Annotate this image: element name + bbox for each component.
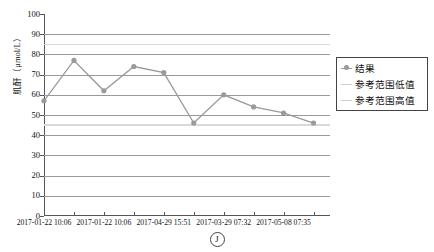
y-axis-tick-label: 90 bbox=[14, 30, 40, 39]
data-point[interactable] bbox=[221, 92, 226, 97]
y-axis-tick-label: 20 bbox=[14, 171, 40, 180]
y-axis-tick-labels: 1009080706050403020100 bbox=[10, 0, 40, 252]
legend-item-result[interactable]: 结果 bbox=[339, 60, 425, 76]
result-line bbox=[44, 60, 314, 123]
y-axis-tick-label: 80 bbox=[14, 50, 40, 59]
y-axis-tick-label: 50 bbox=[14, 111, 40, 120]
y-axis-tick-label: 70 bbox=[14, 70, 40, 79]
x-axis-tick-label: 2017-04-29 15:51 bbox=[136, 218, 191, 227]
y-axis-tick-label: 60 bbox=[14, 90, 40, 99]
legend-item-reference-high[interactable]: 参考范围高值 bbox=[339, 92, 425, 108]
y-axis-tick-label: 10 bbox=[14, 191, 40, 200]
legend-marker-icon bbox=[341, 63, 352, 74]
legend-line-icon-high bbox=[341, 95, 352, 106]
x-axis-tick-label: 2017-05-08 07:35 bbox=[256, 218, 311, 227]
data-point[interactable] bbox=[101, 88, 106, 93]
data-point[interactable] bbox=[191, 120, 196, 125]
legend-label-reference-high: 参考范围高值 bbox=[355, 95, 415, 106]
chart-legend: 结果 参考范围低值 参考范围高值 bbox=[336, 57, 428, 111]
data-point[interactable] bbox=[251, 104, 256, 109]
data-point[interactable] bbox=[281, 110, 286, 115]
x-axis-tick-labels: 2017-01-22 10:062017-01-22 10:062017-04-… bbox=[0, 218, 434, 232]
legend-item-reference-low[interactable]: 参考范围低值 bbox=[339, 76, 425, 92]
y-axis-tick-label: 100 bbox=[14, 10, 40, 19]
legend-line-icon-low bbox=[341, 79, 352, 90]
data-point[interactable] bbox=[41, 98, 46, 103]
creatinine-trend-chart: 肌酐（μmol/L） 1009080706050403020100 2017-0… bbox=[0, 0, 434, 252]
data-point[interactable] bbox=[131, 64, 136, 69]
y-axis-tick-mark bbox=[40, 216, 44, 217]
legend-label-reference-low: 参考范围低值 bbox=[355, 79, 415, 90]
data-point[interactable] bbox=[311, 120, 316, 125]
x-axis-tick-label: 2017-01-22 10:06 bbox=[17, 218, 72, 227]
figure-caption-letter: J bbox=[210, 232, 225, 247]
x-axis-tick-label: 2017-03-29 07:32 bbox=[196, 218, 251, 227]
data-point[interactable] bbox=[71, 58, 76, 63]
x-axis-tick-label: 2017-01-22 10:06 bbox=[77, 218, 132, 227]
y-axis-tick-label: 30 bbox=[14, 151, 40, 160]
y-axis-tick-label: 40 bbox=[14, 131, 40, 140]
legend-label-result: 结果 bbox=[355, 63, 375, 74]
result-markers bbox=[41, 58, 316, 126]
result-series bbox=[44, 14, 330, 216]
figure-caption: J bbox=[0, 232, 434, 247]
plot-area bbox=[44, 14, 330, 216]
data-point[interactable] bbox=[161, 70, 166, 75]
